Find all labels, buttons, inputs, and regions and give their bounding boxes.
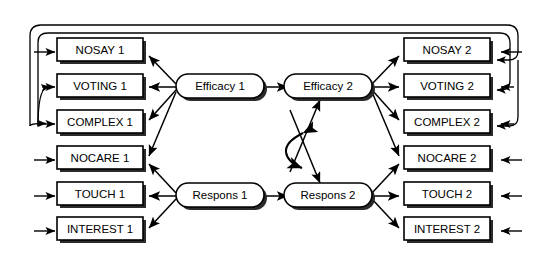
path-efficacy2-nosay2 [372, 56, 399, 84]
oval-label-respons-1: Respons 1 [193, 189, 248, 201]
box-label-voting-2: VOTING 2 [420, 80, 474, 92]
path-efficacy2-nocare2 [372, 92, 399, 156]
latent-ovals: Efficacy 1 Efficacy 2 Respons 1 Respons … [176, 74, 375, 210]
oval-label-respons-2: Respons 2 [301, 189, 356, 201]
box-interest-1[interactable]: INTEREST 1 [57, 217, 146, 243]
box-voting-1[interactable]: VOTING 1 [57, 74, 146, 100]
path-respons1-nocare1 [149, 164, 176, 193]
box-label-complex-2: COMPLEX 2 [414, 116, 480, 128]
box-nocare-2[interactable]: NOCARE 2 [404, 146, 493, 172]
box-label-touch-2: TOUCH 2 [422, 188, 472, 200]
box-label-voting-1: VOTING 1 [73, 80, 127, 92]
oval-respons-2[interactable]: Respons 2 [284, 183, 375, 210]
path-respons2-interest2 [372, 199, 399, 228]
oval-label-efficacy-2: Efficacy 2 [303, 80, 353, 92]
path-efficacy1-respons2 [290, 110, 320, 183]
observed-boxes-wave1: NOSAY 1 VOTING 1 COMPLEX 1 NOCARE 1 TOUC [57, 38, 146, 243]
path-efficacy1-complex1 [149, 90, 176, 120]
residual-arrows-wave1 [34, 52, 55, 231]
structural-paths [264, 87, 320, 196]
box-label-nosay-1: NOSAY 1 [76, 44, 125, 56]
box-touch-2[interactable]: TOUCH 2 [404, 182, 493, 208]
box-voting-2[interactable]: VOTING 2 [404, 74, 493, 100]
box-interest-2[interactable]: INTEREST 2 [404, 217, 493, 243]
box-label-touch-1: TOUCH 1 [75, 188, 125, 200]
box-label-complex-1: COMPLEX 1 [67, 116, 133, 128]
box-complex-1[interactable]: COMPLEX 1 [57, 110, 146, 136]
box-label-interest-1: INTEREST 1 [67, 223, 133, 235]
path-respons1-interest1 [149, 199, 176, 228]
box-nosay-2[interactable]: NOSAY 2 [404, 38, 493, 64]
oval-efficacy-1[interactable]: Efficacy 1 [176, 74, 267, 101]
box-nocare-1[interactable]: NOCARE 1 [57, 146, 146, 172]
sem-path-diagram: NOSAY 1 VOTING 1 COMPLEX 1 NOCARE 1 TOUC [0, 0, 548, 258]
path-efficacy1-nosay1 [149, 56, 176, 84]
path-respons2-nocare2 [372, 164, 399, 193]
observed-boxes-wave2: NOSAY 2 VOTING 2 COMPLEX 2 NOCARE 2 TOUC [404, 38, 493, 243]
box-label-interest-2: INTEREST 2 [414, 223, 480, 235]
path-efficacy2-complex2 [372, 90, 399, 120]
loop-voting [38, 87, 50, 127]
oval-label-efficacy-1: Efficacy 1 [195, 80, 245, 92]
box-complex-2[interactable]: COMPLEX 2 [404, 110, 493, 136]
box-touch-1[interactable]: TOUCH 1 [57, 182, 146, 208]
residual-arrows-wave2 [501, 52, 522, 231]
box-label-nocare-1: NOCARE 1 [71, 152, 130, 164]
measurement-paths-efficacy-2 [372, 56, 399, 156]
box-label-nocare-2: NOCARE 2 [418, 152, 477, 164]
path-respons1-efficacy2 [290, 100, 320, 172]
path-efficacy1-nocare1 [149, 92, 176, 156]
measurement-paths-respons-1 [149, 164, 176, 228]
oval-respons-1[interactable]: Respons 1 [176, 183, 267, 210]
box-nosay-1[interactable]: NOSAY 1 [57, 38, 146, 64]
measurement-paths-respons-2 [372, 164, 399, 228]
box-label-nosay-2: NOSAY 2 [423, 44, 472, 56]
sem-diagram-canvas: NOSAY 1 VOTING 1 COMPLEX 1 NOCARE 1 TOUC [0, 0, 548, 258]
loop-complex-right [497, 60, 518, 126]
measurement-paths-efficacy-1 [149, 56, 176, 156]
oval-efficacy-2[interactable]: Efficacy 2 [284, 74, 375, 101]
